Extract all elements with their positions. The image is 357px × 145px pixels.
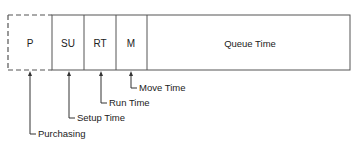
arrow-up-icon bbox=[67, 71, 71, 76]
arrow-up-icon bbox=[28, 71, 32, 76]
callout-setup-time: Setup Time bbox=[77, 112, 125, 123]
callout-move-time: Move Time bbox=[139, 82, 185, 93]
segment-m-label: M bbox=[127, 38, 135, 49]
segment-p-label: P bbox=[27, 38, 34, 49]
lead-time-diagram bbox=[0, 0, 357, 145]
segment-queue-label: Queue Time bbox=[224, 38, 276, 49]
callout-purchasing: Purchasing bbox=[38, 128, 86, 139]
arrow-up-icon bbox=[99, 71, 103, 76]
arrow-up-icon bbox=[129, 71, 133, 76]
segment-su-label: SU bbox=[61, 38, 75, 49]
callout-run-time: Run Time bbox=[109, 97, 150, 108]
arrowheads bbox=[28, 71, 133, 76]
segment-rt-label: RT bbox=[93, 38, 106, 49]
